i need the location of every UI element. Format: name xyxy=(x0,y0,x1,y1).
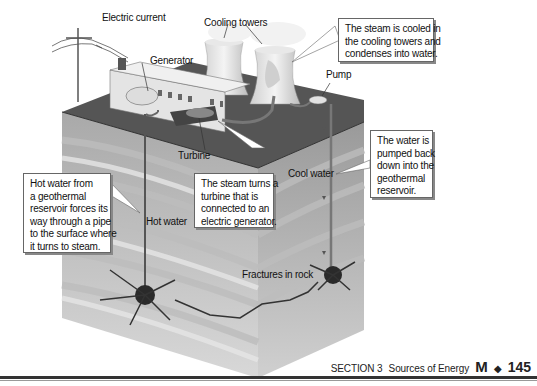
textbook-page: Electric current Generator Cooling tower… xyxy=(0,0,537,386)
callout-steam-turns: The steam turns a turbine that is connec… xyxy=(194,173,274,228)
callout-line: reservoir forces its xyxy=(30,203,104,216)
footer-unit-letter: M xyxy=(475,358,488,375)
callout-line: Hot water from xyxy=(30,178,104,191)
callout-line: turbine that is xyxy=(201,191,267,204)
callout-line: reservoir. xyxy=(377,185,426,198)
label-hot-water: Hot water xyxy=(146,216,187,227)
callout-line: pumped back xyxy=(377,148,426,161)
label-electric-current: Electric current xyxy=(102,12,166,23)
page-number: 145 xyxy=(508,359,531,375)
page-footer: SECTION 3 Sources of Energy M ◆ 145 xyxy=(331,358,531,375)
footer-section: SECTION 3 xyxy=(331,363,383,374)
diamond-icon: ◆ xyxy=(494,363,502,374)
callout-line: condenses into water. xyxy=(345,48,427,61)
callout-steam-cooled: The steam is cooled in the cooling tower… xyxy=(338,18,434,62)
callout-water-pumped: The water is pumped back down into the g… xyxy=(370,130,433,198)
footer-rule-thin xyxy=(0,380,537,381)
callout-line: The steam is cooled in xyxy=(345,23,427,36)
callout-line: The steam turns a xyxy=(201,178,267,191)
callout-line: geothermal xyxy=(377,173,426,186)
callout-line: connected to an xyxy=(201,203,267,216)
pump-icon xyxy=(309,96,327,104)
callout-line: to the surface where xyxy=(30,228,104,241)
callout-line: The water is xyxy=(377,135,426,148)
label-generator: Generator xyxy=(150,55,193,66)
footer-rule xyxy=(0,376,537,379)
callout-line: it turns to steam. xyxy=(30,241,104,254)
transformer-icon xyxy=(118,58,126,70)
callout-line: way through a pipe xyxy=(30,216,104,229)
callout-line: electric generator. xyxy=(201,216,267,229)
label-cool-water: Cool water xyxy=(288,168,334,179)
callout-line: the cooling towers and xyxy=(345,36,427,49)
callout-hot-water-from: Hot water from a geothermal reservoir fo… xyxy=(23,173,111,253)
footer-section-title: Sources of Energy xyxy=(389,363,470,374)
label-cooling-towers: Cooling towers xyxy=(204,17,267,28)
label-turbine: Turbine xyxy=(178,150,210,161)
callout-line: down into the xyxy=(377,160,426,173)
callout-line: a geothermal xyxy=(30,191,104,204)
label-fractures-in-rock: Fractures in rock xyxy=(242,269,313,280)
label-pump: Pump xyxy=(326,69,351,80)
